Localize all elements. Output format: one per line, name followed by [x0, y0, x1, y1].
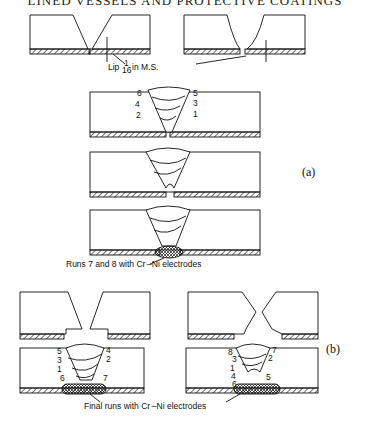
run-label-4: 4: [135, 99, 140, 109]
figure-b-caption: Final runs with Cr –Ni electrodes: [84, 401, 206, 411]
run-label-5: 5: [193, 88, 198, 98]
run-label-2: 2: [136, 110, 141, 120]
b-left-label-6: 6: [60, 373, 65, 383]
run-label-1: 1: [193, 109, 198, 119]
b-right-label-5: 5: [266, 372, 271, 382]
weld-diagram: Lip 1 16 in M.S. 6 4 2 5 3 1 (a) Runs 7 …: [0, 0, 370, 424]
lip-fraction-den: 16: [122, 65, 132, 75]
b-right-label-2: 2: [268, 353, 273, 363]
b-left-label-7: 7: [103, 373, 108, 383]
figure-a-caption: Runs 7 and 8 with Cr –Ni electrodes: [66, 259, 201, 269]
run-label-6: 6: [137, 88, 142, 98]
b-left-label-2: 2: [106, 354, 111, 364]
figure-a-tag: (a): [302, 165, 315, 179]
b-right-label-6: 6: [232, 379, 237, 389]
lip-label: Lip: [108, 62, 120, 72]
lip-unit: in M.S.: [132, 62, 158, 72]
b-right-label-7: 7: [272, 345, 277, 355]
run-label-3: 3: [193, 98, 198, 108]
figure-b-tag: (b): [326, 342, 340, 356]
